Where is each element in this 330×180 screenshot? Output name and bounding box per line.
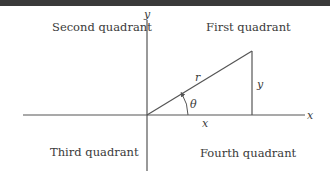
hypotenuse-label: r — [195, 71, 201, 84]
angle-theta-label: θ — [190, 98, 197, 111]
opposite-label: y — [256, 78, 264, 91]
y-axis-label: y — [143, 8, 151, 21]
adjacent-label: x — [202, 117, 209, 130]
third-quadrant-label: Third quadrant — [50, 145, 139, 159]
angle-arc — [182, 94, 188, 115]
first-quadrant-label: First quadrant — [206, 20, 291, 34]
fourth-quadrant-label: Fourth quadrant — [200, 146, 297, 160]
x-axis-label: x — [307, 109, 314, 122]
second-quadrant-label: Second quadrant — [52, 20, 152, 34]
coordinate-diagram: Second quadrant First quadrant Third qua… — [0, 0, 330, 180]
